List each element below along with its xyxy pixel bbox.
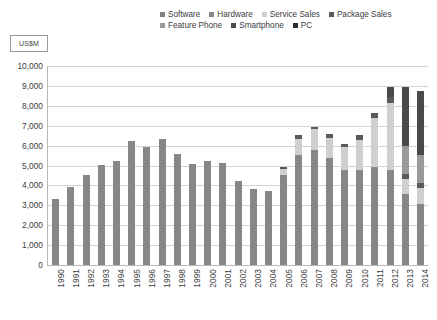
bar-column[interactable]: 1990 bbox=[48, 66, 63, 265]
bar-segment-service-sales bbox=[295, 139, 302, 155]
x-axis-tick-label: 2014 bbox=[420, 269, 430, 288]
bar-segment-service-sales bbox=[371, 118, 378, 167]
legend-swatch-icon bbox=[329, 12, 334, 17]
stacked-bar[interactable] bbox=[67, 187, 74, 265]
bar-column[interactable]: 2010 bbox=[352, 66, 367, 265]
bar-column[interactable]: 1998 bbox=[170, 66, 185, 265]
legend-label: Hardware bbox=[217, 9, 253, 20]
bar-column[interactable]: 2011 bbox=[367, 66, 382, 265]
bar-column[interactable]: 1993 bbox=[94, 66, 109, 265]
chart-legend: SoftwareHardwareService SalesPackage Sal… bbox=[160, 9, 432, 31]
stacked-bar[interactable] bbox=[204, 161, 211, 265]
bar-segment-hardware bbox=[219, 163, 226, 265]
bar-segment-hardware bbox=[265, 191, 272, 265]
legend-label: Package Sales bbox=[337, 9, 392, 20]
legend-swatch-icon bbox=[231, 23, 236, 28]
bar-segment-hardware bbox=[417, 204, 424, 265]
stacked-bar[interactable] bbox=[417, 91, 424, 265]
stacked-bar[interactable] bbox=[219, 163, 226, 265]
y-axis-tick-label: 4,000 bbox=[22, 180, 43, 190]
stacked-bar[interactable] bbox=[280, 167, 287, 265]
bar-segment-hardware bbox=[326, 158, 333, 265]
stacked-bar[interactable] bbox=[52, 199, 59, 265]
stacked-bar[interactable] bbox=[174, 154, 181, 265]
bar-segment-hardware bbox=[159, 139, 166, 265]
stacked-bar[interactable] bbox=[387, 87, 394, 265]
bar-segment-smartphone bbox=[387, 87, 394, 97]
stacked-bar[interactable] bbox=[265, 191, 272, 265]
y-axis-tick-label: 0 bbox=[38, 260, 43, 270]
x-axis-tick-label: 1999 bbox=[192, 269, 202, 288]
bar-column[interactable]: 2009 bbox=[337, 66, 352, 265]
bar-column[interactable]: 2002 bbox=[230, 66, 245, 265]
stacked-bar[interactable] bbox=[371, 113, 378, 265]
bar-segment-hardware bbox=[311, 150, 318, 265]
stacked-bar[interactable] bbox=[326, 134, 333, 265]
bar-column[interactable]: 2014 bbox=[413, 66, 428, 265]
chart-container: SoftwareHardwareService SalesPackage Sal… bbox=[0, 0, 437, 320]
bar-column[interactable]: 2001 bbox=[215, 66, 230, 265]
legend-item-service-sales[interactable]: Service Sales bbox=[262, 9, 320, 20]
legend-item-package-sales[interactable]: Package Sales bbox=[329, 9, 392, 20]
bar-column[interactable]: 2013 bbox=[398, 66, 413, 265]
stacked-bar[interactable] bbox=[113, 161, 120, 265]
stacked-bar[interactable] bbox=[143, 147, 150, 265]
stacked-bar[interactable] bbox=[128, 141, 135, 265]
y-axis-tick-label: 5,000 bbox=[22, 161, 43, 171]
bar-segment-hardware bbox=[402, 194, 409, 265]
x-axis-tick-label: 2002 bbox=[238, 269, 248, 288]
bar-segment-smartphone bbox=[402, 87, 409, 146]
bar-column[interactable]: 2003 bbox=[246, 66, 261, 265]
bar-column[interactable]: 1999 bbox=[185, 66, 200, 265]
legend-item-pc[interactable]: PC bbox=[293, 20, 312, 31]
bar-segment-hardware bbox=[235, 181, 242, 265]
stacked-bar[interactable] bbox=[189, 164, 196, 265]
bar-segment-hardware bbox=[113, 161, 120, 265]
bar-column[interactable]: 1996 bbox=[139, 66, 154, 265]
bar-segment-service-sales bbox=[417, 188, 424, 204]
bar-column[interactable]: 2007 bbox=[306, 66, 321, 265]
stacked-bar[interactable] bbox=[83, 175, 90, 265]
bar-segment-smartphone bbox=[417, 91, 424, 155]
legend-item-hardware[interactable]: Hardware bbox=[209, 9, 253, 20]
stacked-bar[interactable] bbox=[295, 135, 302, 265]
legend-item-smartphone[interactable]: Smartphone bbox=[231, 20, 284, 31]
legend-item-software[interactable]: Software bbox=[160, 9, 200, 20]
legend-swatch-icon bbox=[160, 12, 165, 17]
legend-label: Service Sales bbox=[270, 9, 320, 20]
bar-segment-feature-phone bbox=[417, 155, 424, 183]
y-axis-tick-label: 8,000 bbox=[22, 101, 43, 111]
x-axis-tick-label: 1993 bbox=[101, 269, 111, 288]
bar-column[interactable]: 1997 bbox=[154, 66, 169, 265]
bar-segment-feature-phone bbox=[402, 146, 409, 174]
bar-column[interactable]: 2012 bbox=[382, 66, 397, 265]
bar-column[interactable]: 1992 bbox=[78, 66, 93, 265]
bar-column[interactable]: 2008 bbox=[322, 66, 337, 265]
x-axis-tick-label: 2004 bbox=[268, 269, 278, 288]
bar-column[interactable]: 2005 bbox=[276, 66, 291, 265]
x-axis-tick-label: 1996 bbox=[147, 269, 157, 288]
stacked-bar[interactable] bbox=[311, 127, 318, 265]
stacked-bar[interactable] bbox=[250, 189, 257, 265]
bar-column[interactable]: 2004 bbox=[261, 66, 276, 265]
bar-column[interactable]: 2000 bbox=[200, 66, 215, 265]
bar-segment-service-sales bbox=[341, 147, 348, 170]
legend-label: Software bbox=[168, 9, 200, 20]
stacked-bar[interactable] bbox=[356, 135, 363, 265]
y-axis-tick-label: 10,000 bbox=[17, 61, 43, 71]
bar-column[interactable]: 2006 bbox=[291, 66, 306, 265]
legend-swatch-icon bbox=[160, 23, 165, 28]
y-axis-tick-label: 2,000 bbox=[22, 220, 43, 230]
stacked-bar[interactable] bbox=[159, 139, 166, 265]
legend-item-feature-phone[interactable]: Feature Phone bbox=[160, 20, 222, 31]
bar-segment-service-sales bbox=[326, 138, 333, 158]
stacked-bar[interactable] bbox=[98, 165, 105, 265]
stacked-bar[interactable] bbox=[235, 181, 242, 265]
stacked-bar[interactable] bbox=[402, 87, 409, 265]
bar-column[interactable]: 1991 bbox=[63, 66, 78, 265]
bar-column[interactable]: 1995 bbox=[124, 66, 139, 265]
bar-column[interactable]: 1994 bbox=[109, 66, 124, 265]
bar-segment-hardware bbox=[295, 155, 302, 265]
bar-segment-hardware bbox=[98, 165, 105, 265]
stacked-bar[interactable] bbox=[341, 144, 348, 265]
